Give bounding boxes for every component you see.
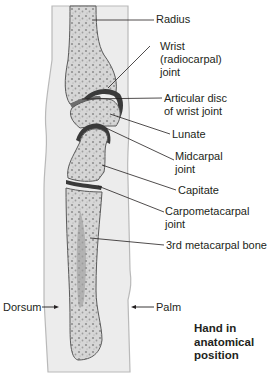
label-carpometacarpal-joint: Carpometacarpal joint	[165, 205, 249, 231]
label-dorsum: Dorsum	[3, 301, 42, 314]
label-midcarpal-joint-line1: Midcarpal	[175, 150, 223, 163]
label-wrist-joint-line2: (radiocarpal)	[160, 53, 222, 66]
label-midcarpal-joint: Midcarpal joint	[175, 150, 223, 176]
label-capitate: Capitate	[178, 184, 219, 197]
label-palm: Palm	[156, 301, 181, 314]
label-carpometacarpal-joint-line1: Carpometacarpal	[165, 205, 249, 218]
label-articular-disc: Articular disc of wrist joint	[164, 92, 227, 118]
caption-line1: Hand in	[194, 322, 254, 336]
label-lunate: Lunate	[172, 128, 206, 141]
caption-line3: position	[194, 349, 254, 363]
label-carpometacarpal-joint-line2: joint	[165, 218, 249, 231]
label-midcarpal-joint-line2: joint	[175, 163, 223, 176]
third-metacarpal-bone	[66, 188, 102, 360]
label-third-metacarpal: 3rd metacarpal bone	[166, 239, 267, 252]
label-wrist-joint-line3: joint	[160, 66, 222, 79]
label-articular-disc-line2: of wrist joint	[164, 105, 227, 118]
figure-caption: Hand in anatomical position	[194, 322, 254, 363]
anatomy-figure: Radius Wrist (radiocarpal) joint Articul…	[0, 0, 274, 380]
label-wrist-joint: Wrist (radiocarpal) joint	[160, 40, 222, 79]
label-radius: Radius	[156, 13, 190, 26]
label-articular-disc-line1: Articular disc	[164, 92, 227, 105]
palm-arrow	[131, 305, 154, 309]
caption-line2: anatomical	[194, 336, 254, 350]
label-wrist-joint-line1: Wrist	[160, 40, 222, 53]
